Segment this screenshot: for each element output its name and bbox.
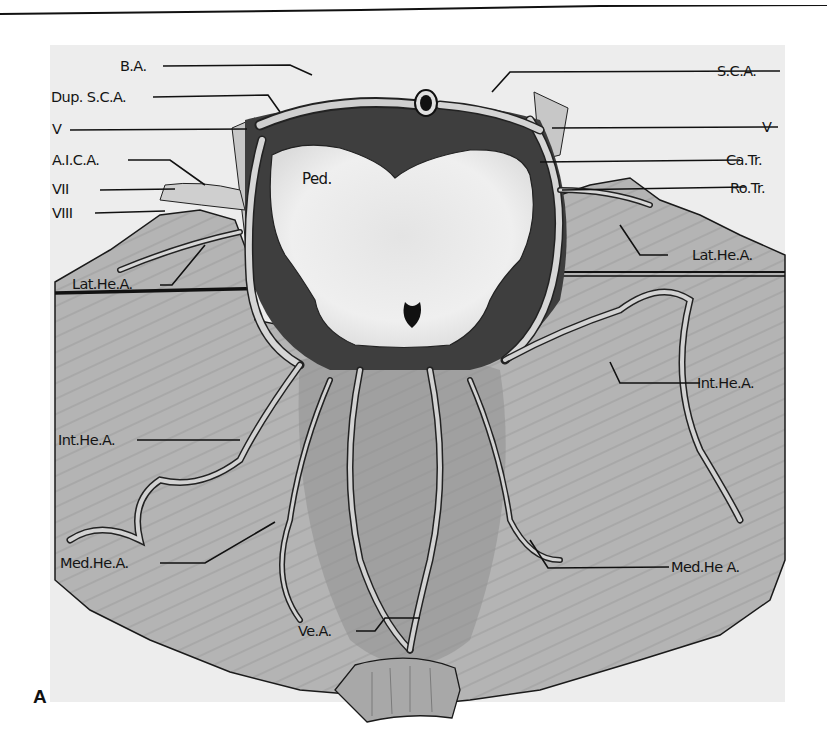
anatomical-illustration	[0, 0, 827, 745]
label-facial-nerve: VII	[52, 182, 69, 197]
label-superior-cerebellar-artery: S.C.A.	[717, 64, 756, 79]
label-vermian-artery: Ve.A.	[298, 624, 332, 639]
label-trigeminal-nerve-right: V	[762, 120, 771, 135]
facial-vestibulocochlear-nerves	[160, 183, 245, 210]
label-peduncle: Ped.	[302, 172, 332, 187]
label-lateral-hemispheric-artery-right: Lat.He.A.	[692, 248, 753, 263]
label-trigeminal-nerve-left: V	[52, 122, 61, 137]
label-medial-hemispheric-artery-left: Med.He.A.	[60, 556, 129, 571]
label-caudal-trunk: Ca.Tr.	[726, 153, 762, 168]
label-intermediate-hemispheric-artery-left: Int.He.A.	[58, 433, 115, 448]
label-basilar-artery: B.A.	[120, 59, 146, 74]
panel-label: A	[33, 686, 47, 708]
label-aica: A.I.C.A.	[52, 153, 99, 168]
label-rostral-trunk: Ro.Tr.	[730, 181, 765, 196]
label-duplicated-superior-cerebellar-artery: Dup. S.C.A.	[51, 90, 126, 105]
label-lateral-hemispheric-artery-left: Lat.He.A.	[72, 277, 133, 292]
label-vestibulocochlear-nerve: VIII	[52, 206, 72, 221]
label-medial-hemispheric-artery-right: Med.He A.	[671, 560, 740, 575]
label-intermediate-hemispheric-artery-right: Int.He.A.	[697, 376, 754, 391]
medulla-stump	[335, 658, 460, 722]
